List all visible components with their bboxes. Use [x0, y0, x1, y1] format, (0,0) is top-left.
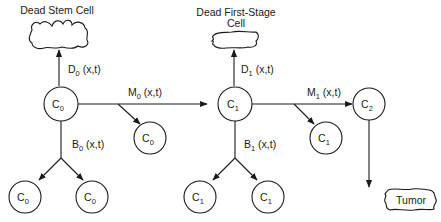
d0-rate-label: D0 (x,t)	[68, 63, 101, 78]
b1-left-arrow	[213, 158, 235, 180]
b0-right-arrow	[61, 158, 83, 180]
d1-rate-label: D1 (x,t)	[241, 63, 274, 78]
b0-rate-label: B0 (x,t)	[72, 138, 104, 153]
tumor-label: Tumor	[396, 194, 426, 206]
m1-rate-label: M1 (x,t)	[307, 86, 341, 101]
dead-stem-cell-label: Dead Stem Cell	[20, 4, 94, 16]
m0-rate-label: M0 (x,t)	[128, 86, 162, 101]
dead-first-stage-cloud	[212, 31, 258, 48]
cell-lineage-diagram: Dead Stem Cell D0 (x,t) C0 M0 (x,t) C0 B…	[0, 0, 441, 222]
b1-right-arrow	[235, 158, 257, 180]
b0-left-arrow	[39, 158, 61, 180]
m1-residual-arrow	[294, 104, 314, 124]
b1-rate-label: B1 (x,t)	[244, 138, 276, 153]
dead-first-stage-label-line2: Cell	[227, 17, 245, 29]
m0-residual-arrow	[118, 104, 140, 124]
dead-stem-cell-cloud	[29, 20, 88, 48]
